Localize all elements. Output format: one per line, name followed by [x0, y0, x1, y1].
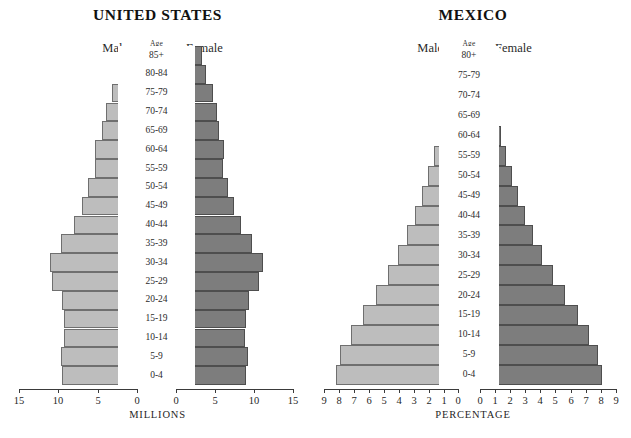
axis-tick: [510, 389, 511, 393]
pyramid-row: 15-19: [0, 310, 315, 329]
age-group-label: 65-69: [118, 121, 195, 140]
age-group-label: 50-54: [439, 166, 499, 186]
axis-tick-label: 6: [568, 395, 573, 406]
age-group-label: 20-24: [118, 291, 195, 310]
pyramid-row: 5-9: [315, 345, 631, 365]
axis-tick: [399, 389, 400, 393]
axis-tick-label: 9: [321, 395, 326, 406]
axis-tick: [571, 389, 572, 393]
page-title-us: UNITED STATES: [0, 6, 315, 24]
axis-tick-label: 4: [396, 395, 401, 406]
axis-tick-label: 3: [411, 395, 416, 406]
axis-tick-label: 5: [95, 395, 100, 406]
axis-tick-label: 8: [336, 395, 341, 406]
age-group-label: 55-59: [439, 146, 499, 166]
axis-tick: [254, 389, 255, 393]
x-axis-title-us: MILLIONS: [0, 409, 315, 420]
pyramid-row: 25-29: [0, 272, 315, 291]
age-group-label: 75-79: [439, 66, 499, 86]
age-group-label: 25-29: [118, 272, 195, 291]
axis-tick: [19, 389, 20, 393]
axis-tick: [176, 389, 177, 393]
population-pyramid-figure: UNITED STATES Male Female Age 85+80-8475…: [0, 0, 631, 438]
pyramid-row: 55-59: [0, 159, 315, 178]
axis-tick-label: 5: [381, 395, 386, 406]
age-group-label: 40-44: [118, 216, 195, 235]
pyramid-row: 10-14: [0, 329, 315, 348]
axis-tick-label: 10: [249, 395, 260, 406]
age-group-label: 15-19: [439, 305, 499, 325]
axis-tick: [339, 389, 340, 393]
pyramid-row: 85+: [0, 46, 315, 65]
axis-tick: [58, 389, 59, 393]
axis-tick-label: 10: [53, 395, 64, 406]
axis-tick: [586, 389, 587, 393]
plot-area-mx: 80+75-7970-7465-6960-6455-5950-5445-4940…: [315, 46, 631, 385]
axis-tick: [429, 389, 430, 393]
axis-tick: [354, 389, 355, 393]
axis-tick-label: 6: [366, 395, 371, 406]
age-group-label: 40-44: [439, 206, 499, 226]
age-group-label: 50-54: [118, 178, 195, 197]
age-group-label: 5-9: [118, 347, 195, 366]
axis-tick-label: 5: [212, 395, 217, 406]
axis-tick-label: 1: [492, 395, 497, 406]
axis-tick-label: 9: [613, 395, 618, 406]
axis-tick: [601, 389, 602, 393]
axis-tick-label: 15: [288, 395, 299, 406]
pyramid-row: 30-34: [0, 253, 315, 272]
axis-tick-label: 15: [14, 395, 25, 406]
age-group-label: 80+: [439, 46, 499, 66]
pyramid-row: 0-4: [0, 366, 315, 385]
age-group-label: 0-4: [439, 365, 499, 385]
age-group-label: 60-64: [439, 126, 499, 146]
axis-tick: [293, 389, 294, 393]
axis-tick-label: 3: [522, 395, 527, 406]
axis-tick: [215, 389, 216, 393]
pyramid-row: 80+: [315, 46, 631, 66]
age-group-label: 65-69: [439, 106, 499, 126]
axis-tick-label: 4: [537, 395, 542, 406]
axis-tick: [616, 389, 617, 393]
age-group-label: 20-24: [439, 285, 499, 305]
axis-tick-label: 7: [351, 395, 356, 406]
age-group-label: 10-14: [439, 325, 499, 345]
pyramid-row: 20-24: [315, 285, 631, 305]
age-group-label: 5-9: [439, 345, 499, 365]
axis-tick: [495, 389, 496, 393]
pyramid-row: 65-69: [315, 106, 631, 126]
x-axis-right-us: [176, 389, 293, 390]
age-group-label: 15-19: [118, 310, 195, 329]
pyramid-row: 65-69: [0, 121, 315, 140]
axis-tick-label: 2: [426, 395, 431, 406]
age-group-label: 45-49: [439, 186, 499, 206]
x-axis-right-mx: [480, 389, 616, 390]
age-group-label: 75-79: [118, 84, 195, 103]
pyramid-row: 75-79: [0, 84, 315, 103]
pyramid-row: 70-74: [315, 86, 631, 106]
pyramid-row: 5-9: [0, 347, 315, 366]
axis-tick: [525, 389, 526, 393]
pyramid-row: 10-14: [315, 325, 631, 345]
x-axis-left-mx: [324, 389, 458, 390]
page-title-mx: MEXICO: [315, 6, 631, 24]
pyramid-row: 40-44: [315, 206, 631, 226]
pyramid-row: 40-44: [0, 216, 315, 235]
axis-tick-label: 0: [173, 395, 178, 406]
pyramid-row: 55-59: [315, 146, 631, 166]
age-group-label: 10-14: [118, 329, 195, 348]
pyramid-row: 15-19: [315, 305, 631, 325]
pyramid-row: 45-49: [0, 197, 315, 216]
age-group-label: 70-74: [439, 86, 499, 106]
axis-tick: [555, 389, 556, 393]
age-group-label: 60-64: [118, 140, 195, 159]
axis-tick: [444, 389, 445, 393]
age-group-label: 85+: [118, 46, 195, 65]
axis-tick-label: 1: [441, 395, 446, 406]
axis-tick: [540, 389, 541, 393]
age-group-label: 80-84: [118, 65, 195, 84]
axis-tick-label: 0: [477, 395, 482, 406]
age-group-label: 45-49: [118, 197, 195, 216]
axis-tick: [324, 389, 325, 393]
pyramid-row: 30-34: [315, 245, 631, 265]
